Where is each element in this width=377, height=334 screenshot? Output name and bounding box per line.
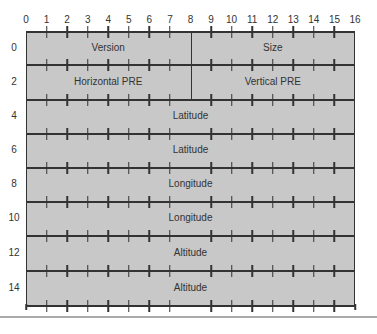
bit-tick xyxy=(66,230,68,242)
bit-tick xyxy=(231,265,233,277)
row-boundary-line xyxy=(26,167,355,169)
bit-tick xyxy=(149,128,151,140)
bit-tick xyxy=(128,94,130,106)
row-boundary-line xyxy=(26,133,355,135)
bit-tick xyxy=(313,265,315,277)
bit-tick xyxy=(87,300,89,312)
bit-tick xyxy=(108,230,110,242)
bit-tick xyxy=(169,196,171,208)
bit-tick xyxy=(66,94,68,106)
field-latitude: Latitude xyxy=(173,144,209,155)
bit-tick xyxy=(251,94,253,106)
bit-tick xyxy=(87,59,89,71)
bit-tick xyxy=(87,162,89,174)
bit-tick xyxy=(149,230,151,242)
bit-tick xyxy=(272,300,274,312)
bit-tick xyxy=(128,59,130,71)
bit-tick xyxy=(272,26,274,38)
bit-tick xyxy=(46,162,48,174)
bit-tick xyxy=(231,94,233,106)
bit-tick xyxy=(313,59,315,71)
bit-tick xyxy=(334,26,336,38)
bit-tick xyxy=(108,94,110,106)
bit-tick xyxy=(128,26,130,38)
bit-tick xyxy=(251,196,253,208)
bit-tick xyxy=(46,196,48,208)
bit-tick xyxy=(210,230,212,242)
bit-tick xyxy=(66,128,68,140)
bit-tick xyxy=(293,300,295,312)
bit-tick xyxy=(108,196,110,208)
field-vertical-pre: Vertical PRE xyxy=(245,75,301,86)
bit-tick xyxy=(128,196,130,208)
bit-tick xyxy=(169,59,171,71)
field-divider xyxy=(191,31,193,99)
bit-tick xyxy=(46,59,48,71)
field-latitude: Latitude xyxy=(173,110,209,121)
bit-tick xyxy=(231,26,233,38)
bit-tick xyxy=(87,265,89,277)
separator-line xyxy=(0,316,377,318)
bit-tick xyxy=(128,128,130,140)
bit-tick xyxy=(231,230,233,242)
bit-tick xyxy=(210,265,212,277)
bit-tick xyxy=(169,265,171,277)
bit-tick xyxy=(251,265,253,277)
field-version: Version xyxy=(92,41,125,52)
bit-tick xyxy=(210,128,212,140)
field-altitude: Altitude xyxy=(174,246,207,257)
bit-tick xyxy=(210,26,212,38)
bit-tick xyxy=(334,162,336,174)
bit-label: 9 xyxy=(208,14,214,25)
bit-tick xyxy=(231,162,233,174)
bit-tick xyxy=(210,94,212,106)
bit-tick xyxy=(334,94,336,106)
bit-tick xyxy=(169,230,171,242)
bit-tick xyxy=(149,26,151,38)
bit-tick xyxy=(313,128,315,140)
bit-tick xyxy=(231,196,233,208)
bit-tick xyxy=(128,162,130,174)
bit-tick xyxy=(108,26,110,38)
bit-tick xyxy=(334,59,336,71)
bit-tick xyxy=(66,162,68,174)
field-size: Size xyxy=(263,41,282,52)
bit-tick xyxy=(66,196,68,208)
bit-tick xyxy=(169,94,171,106)
bit-tick xyxy=(128,300,130,312)
row-boundary-line xyxy=(26,99,355,101)
packet-format-diagram: 012345678910111213141516 02468101214 Ver… xyxy=(0,0,377,334)
bit-tick xyxy=(210,59,212,71)
bit-tick xyxy=(128,265,130,277)
bit-tick xyxy=(293,59,295,71)
bit-label: 16 xyxy=(349,14,360,25)
bit-tick xyxy=(169,128,171,140)
bit-tick xyxy=(87,230,89,242)
row-label: 10 xyxy=(8,212,19,223)
bit-tick xyxy=(272,59,274,71)
bit-tick xyxy=(87,196,89,208)
row-boundary-line xyxy=(26,201,355,203)
bit-tick xyxy=(313,196,315,208)
bit-tick xyxy=(87,94,89,106)
bit-tick xyxy=(231,128,233,140)
bit-tick xyxy=(293,265,295,277)
bit-tick xyxy=(293,196,295,208)
bit-tick xyxy=(66,26,68,38)
bit-label: 0 xyxy=(23,14,29,25)
bit-tick xyxy=(272,128,274,140)
bit-tick xyxy=(25,304,27,310)
bit-tick xyxy=(149,300,151,312)
bit-label: 13 xyxy=(288,14,299,25)
row-boundary-line xyxy=(26,270,355,272)
bit-tick xyxy=(149,162,151,174)
row-label: 2 xyxy=(11,76,17,87)
bit-tick xyxy=(251,230,253,242)
bit-label: 12 xyxy=(267,14,278,25)
bit-label: 7 xyxy=(167,14,173,25)
bit-tick xyxy=(46,230,48,242)
bit-tick xyxy=(149,196,151,208)
bit-tick xyxy=(87,26,89,38)
bit-tick xyxy=(293,162,295,174)
bit-tick xyxy=(334,196,336,208)
